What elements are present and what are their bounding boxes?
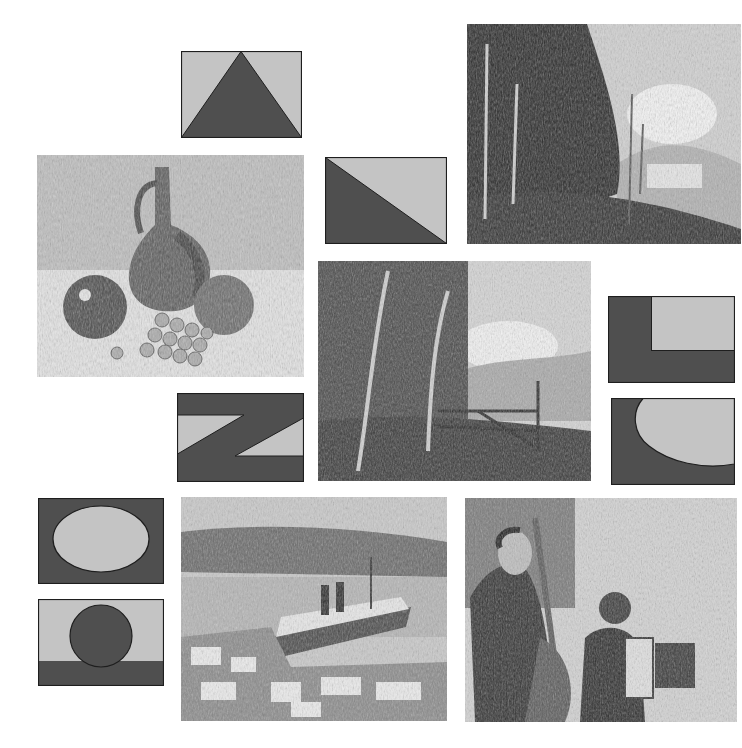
shape-diagram-triangle: Dark triangle on light ground	[181, 51, 302, 138]
shape-diagram-curve: Light curved mass over dark corner	[611, 398, 735, 485]
shape-diagram-diagonal: Diagonal split, dark lower-left	[325, 157, 447, 244]
sketch-still-life: Still life: jug, apples and grapes	[37, 155, 304, 377]
shape-diagram-circle-base: Dark circle rising from dark base	[38, 599, 164, 686]
sketch-musicians: Interior: double bass player and accordi…	[465, 498, 737, 722]
shape-diagram-zigzag: Dark Z-shape with light wedges	[177, 393, 304, 482]
shape-diagram-oval: Light oval on dark ground	[38, 498, 164, 584]
sketch-gate-landscape: Landscape: bare trees and field gate	[318, 261, 591, 481]
sketch-trees-landscape: Landscape: row of trees and farmhouse	[467, 24, 741, 244]
sketch-harbor: Harbor: steamship and rooftops	[181, 497, 447, 721]
shape-diagram-l-shape: Dark L-shape framing light rectangle	[608, 296, 735, 383]
